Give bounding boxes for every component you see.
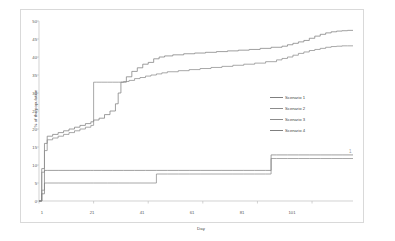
x-tick-label: 41 xyxy=(132,210,152,215)
x-tick-label: 1 xyxy=(32,210,52,215)
y-tick-label: 0 xyxy=(23,199,37,204)
legend-line-icon xyxy=(270,97,283,98)
chart-legend: Scenario 1 Scenario 2 Scenario 3 Scenari… xyxy=(270,92,332,136)
x-tick-label: 81 xyxy=(232,210,252,215)
legend-line-icon xyxy=(270,108,283,109)
legend-item[interactable]: Scenario 2 xyxy=(270,103,332,114)
y-tick-label: 50 xyxy=(23,19,37,24)
chart-frame: 50 45 40 35 30 25 20 15 10 5 0 1 21 41 6… xyxy=(20,9,364,223)
x-tick-label: 101 xyxy=(282,210,302,215)
legend-item-label: Scenario 4 xyxy=(285,128,305,133)
y-tick-label: 10 xyxy=(23,163,37,168)
legend-item[interactable]: Scenario 3 xyxy=(270,114,332,125)
y-tick-label: 35 xyxy=(23,73,37,78)
y-tick-label: 45 xyxy=(23,37,37,42)
x-axis-title: Day xyxy=(171,226,231,231)
legend-item-label: Scenario 2 xyxy=(285,106,305,111)
y-axis-title: % of the population xyxy=(33,79,38,139)
legend-item[interactable]: Scenario 1 xyxy=(270,92,332,103)
x-tick-label: 21 xyxy=(82,210,102,215)
legend-line-icon xyxy=(270,130,283,131)
legend-line-icon xyxy=(270,119,283,120)
corner-annotation: 1 xyxy=(349,149,352,154)
x-tick-label: 61 xyxy=(182,210,202,215)
y-tick-label: 15 xyxy=(23,145,37,150)
legend-item-label: Scenario 1 xyxy=(285,95,305,100)
legend-item-label: Scenario 3 xyxy=(285,117,305,122)
chart-figure: 50 45 40 35 30 25 20 15 10 5 0 1 21 41 6… xyxy=(0,0,395,241)
y-tick-label: 5 xyxy=(23,181,37,186)
y-tick-label: 40 xyxy=(23,55,37,60)
legend-item[interactable]: Scenario 4 xyxy=(270,125,332,136)
